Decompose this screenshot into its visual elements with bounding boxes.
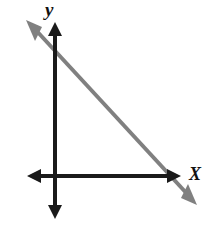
x-axis-arrowhead-left bbox=[27, 169, 41, 183]
x-axis-label: X bbox=[189, 165, 201, 183]
y-axis-label: y bbox=[45, 0, 53, 19]
graph-canvas bbox=[0, 0, 213, 226]
y-axis-arrowhead-bottom bbox=[48, 205, 62, 219]
y-axis-arrowhead-top bbox=[48, 22, 62, 36]
line-arrowhead-upper-left bbox=[26, 20, 42, 41]
coordinate-plane-figure: y X bbox=[0, 0, 213, 226]
x-axis bbox=[27, 169, 181, 183]
y-axis bbox=[48, 22, 62, 219]
